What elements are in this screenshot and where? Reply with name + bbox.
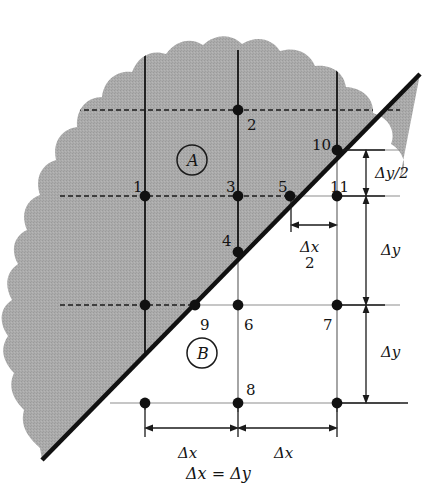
dimension-label-dy-mid: Δy <box>381 243 400 258</box>
node-label-2: 2 <box>247 118 257 133</box>
node-label-7: 7 <box>323 318 333 333</box>
grid-node-10 <box>332 145 343 156</box>
node-label-10: 10 <box>312 138 331 153</box>
dimension-label-dx-right: Δx <box>274 446 293 461</box>
region-label-A: A <box>187 153 199 169</box>
grid-node-right-bottom <box>332 398 343 409</box>
dimension-label-dx-left: Δx <box>178 446 197 461</box>
node-label-11: 11 <box>330 180 349 195</box>
node-label-9: 9 <box>200 318 210 333</box>
region-label-B: B <box>197 346 209 362</box>
dimension-label-dy-lower: Δy <box>381 345 400 360</box>
grid-node-2 <box>233 105 244 116</box>
node-label-3: 3 <box>226 180 236 195</box>
node-label-5: 5 <box>278 180 288 195</box>
dimension-label-dx-half: Δx 2 <box>300 240 319 271</box>
figure-caption: Δx = Δy <box>186 466 251 482</box>
grid-node-left-mid <box>140 300 151 311</box>
grid-node-9 <box>190 300 201 311</box>
node-label-1: 1 <box>133 180 143 195</box>
grid-node-4 <box>233 247 244 258</box>
dimension-lines-horizontal <box>144 403 338 437</box>
dimension-label-dy-half: Δy/2 <box>375 166 409 181</box>
grid-node-left-bottom <box>140 398 151 409</box>
finite-difference-grid-figure <box>0 0 429 493</box>
dimension-line-dx-half <box>290 199 338 232</box>
dimension-lines-vertical <box>340 149 408 404</box>
node-label-6: 6 <box>244 318 254 333</box>
dimension-dx-half-numerator: Δx <box>300 240 319 255</box>
node-label-4: 4 <box>222 234 232 249</box>
grid-node-6 <box>233 300 244 311</box>
node-label-8: 8 <box>246 383 256 398</box>
dimension-dx-half-denominator: 2 <box>300 256 319 271</box>
shaded-region-A <box>2 36 420 460</box>
grid-node-8 <box>233 398 244 409</box>
grid-node-7 <box>332 300 343 311</box>
